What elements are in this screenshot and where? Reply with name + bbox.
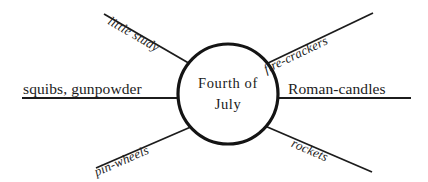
cluster-diagram-canvas: Fourth of July little study fire-cracker…	[0, 0, 428, 182]
spoke-label-roman-candles: Roman-candles	[288, 80, 386, 98]
center-topic-line-2: July	[215, 94, 242, 115]
center-topic: Fourth of July	[178, 44, 278, 144]
spoke-label-squibs-gunpowder: squibs, gunpowder	[23, 80, 142, 98]
center-topic-line-1: Fourth of	[198, 73, 258, 94]
